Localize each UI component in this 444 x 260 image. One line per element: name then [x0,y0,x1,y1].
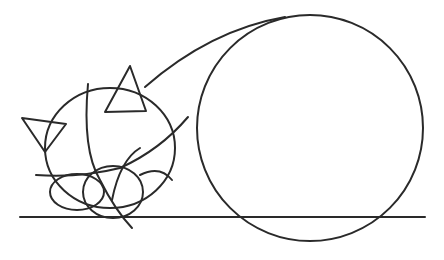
body-circle [197,15,423,241]
cat-drawing [0,0,444,260]
left-paw [50,174,104,210]
tail-curve [145,17,285,87]
drawing-svg [0,0,444,260]
left-ear [22,118,66,152]
